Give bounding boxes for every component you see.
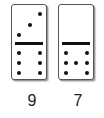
domino-right-top-half-blank [59,5,93,42]
pip [64,51,68,55]
pip [28,23,32,27]
domino-left-sum-label: 9 [22,92,42,110]
pip [85,71,89,75]
pip [17,33,21,37]
pip [85,51,89,55]
pip [74,61,78,65]
domino-left [11,4,47,80]
pip [17,51,21,55]
domino-right-sum-label: 7 [68,92,88,110]
pip [85,61,89,65]
pip [64,71,68,75]
domino-left-bottom-half-six [12,43,46,80]
pip [38,51,42,55]
pip [17,61,21,65]
domino-right [58,4,94,80]
pip [64,61,68,65]
pip [38,71,42,75]
pip [38,12,42,16]
domino-left-top-half-three [12,5,46,42]
domino-right-bottom-half-seven [59,43,93,80]
pip [17,71,21,75]
pip [38,61,42,65]
